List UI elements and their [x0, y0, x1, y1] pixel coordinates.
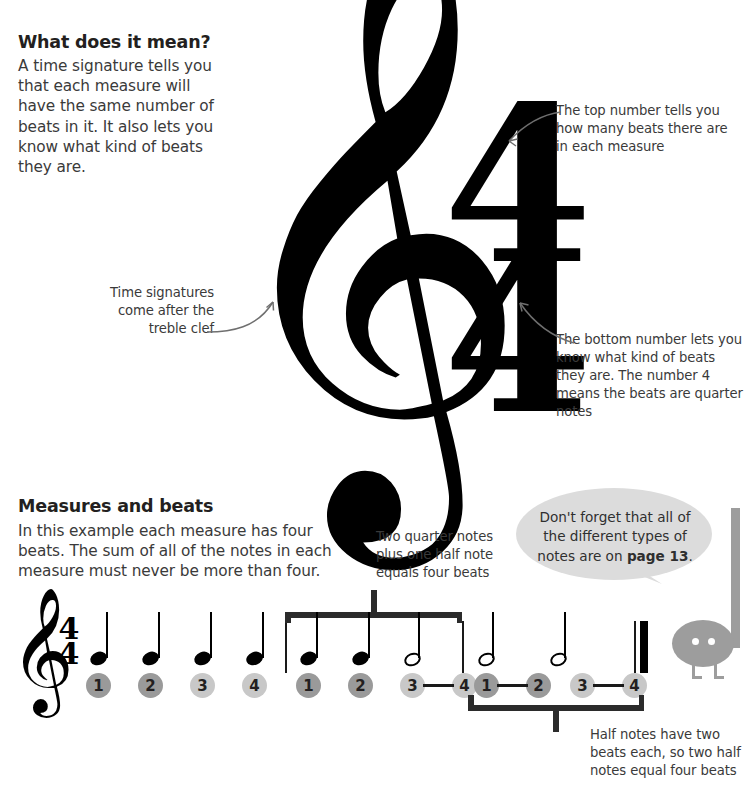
- note-character-stem: [731, 508, 740, 648]
- beat-circle-m1-1: 1: [86, 673, 111, 698]
- beat-circle-m2-1: 1: [296, 673, 321, 698]
- note-character-body: [672, 620, 734, 667]
- beat-tie-m2-3-4: [423, 684, 454, 687]
- note-stem: [564, 612, 566, 658]
- note-stem: [418, 612, 420, 658]
- speech-bubble-tail: [628, 562, 668, 588]
- staff-time-signature-bottom: 4: [56, 642, 82, 667]
- page-title: What does it mean?: [18, 32, 238, 53]
- note-stem: [106, 612, 108, 658]
- bubble-line-1: Don't forget that all of: [539, 509, 690, 525]
- callout-top-number: The top number tells you how many beats …: [556, 102, 742, 156]
- bracket-cap-right: [639, 695, 645, 706]
- beat-circle-m1-2: 2: [138, 673, 163, 698]
- callout-measure-three: Half notes have two beats each, so two h…: [590, 726, 746, 780]
- note-stem: [210, 612, 212, 658]
- barline-2: [462, 621, 464, 673]
- note-character-foot-right: [714, 676, 724, 679]
- beat-circle-m3-2: 2: [526, 673, 551, 698]
- final-barline-thin: [634, 621, 636, 673]
- bubble-line-3-suffix: .: [688, 548, 692, 564]
- note-stem: [368, 612, 370, 658]
- intro-paragraph: A time signature tells you that each mea…: [18, 56, 214, 177]
- callout-treble-clef: Time signatures come after the treble cl…: [78, 284, 214, 338]
- speech-bubble-text: Don't forget that all of the different t…: [522, 508, 708, 566]
- beat-circle-m3-3: 3: [570, 673, 595, 698]
- beat-tie-m3-1-2: [497, 684, 528, 687]
- note-stem: [262, 612, 264, 658]
- beat-circle-m2-2: 2: [348, 673, 373, 698]
- note-character-eye-left: [692, 638, 699, 645]
- beat-circle-m1-4: 4: [242, 673, 267, 698]
- measures-heading: Measures and beats: [18, 496, 318, 517]
- staff-time-signature: 4 4: [56, 617, 82, 666]
- beat-tie-m3-3-4: [593, 684, 624, 687]
- note-stem: [492, 612, 494, 658]
- bubble-line-2: the different types of: [543, 528, 687, 544]
- bracket-cap-left: [468, 695, 474, 706]
- bracket-bar: [285, 612, 462, 618]
- bracket-stem: [553, 710, 559, 732]
- final-barline-thick: [640, 621, 648, 673]
- bracket-cap-left: [285, 612, 291, 623]
- beat-circle-m3-1: 1: [474, 673, 499, 698]
- note-character-eye-right: [708, 638, 715, 645]
- callout-measure-two: Two quarter notes plus one half note equ…: [376, 528, 494, 582]
- bubble-line-3-prefix: notes are on: [537, 548, 627, 564]
- beat-circle-m2-3: 3: [400, 673, 425, 698]
- beat-circle-m1-3: 3: [190, 673, 215, 698]
- note-character-foot-left: [692, 676, 702, 679]
- bubble-page-reference: page 13: [627, 548, 689, 564]
- note-stem: [316, 612, 318, 658]
- bracket-stem: [371, 590, 377, 612]
- note-stem: [158, 612, 160, 658]
- callout-bottom-number: The bottom number lets you know what kin…: [556, 331, 748, 421]
- bracket-measure-two: [285, 612, 462, 646]
- measures-paragraph: In this example each measure has four be…: [18, 521, 348, 582]
